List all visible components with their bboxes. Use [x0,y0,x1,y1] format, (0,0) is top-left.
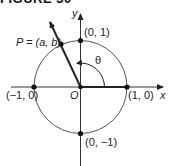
point-bottom [78,131,83,136]
origin-point [78,85,82,89]
label-bottom-point: (0, −1) [85,136,117,148]
theta-arc [77,63,105,87]
origin-label: O [70,89,79,101]
y-axis-label: y [71,7,79,19]
theta-label: θ [95,54,101,66]
label-right-point: (1, 0) [128,89,154,101]
terminal-side-arrow [50,22,81,87]
x-axis-label: x [159,89,166,101]
point-top [78,38,83,43]
label-top-point: (0, 1) [84,26,110,38]
label-point-p: P = (a, b) [16,36,61,48]
unit-circle-diagram: y x O (0, 1) (−1, 0) (1, 0) (0, −1) P = … [0,0,172,166]
label-left-point: (−1, 0) [6,89,38,101]
